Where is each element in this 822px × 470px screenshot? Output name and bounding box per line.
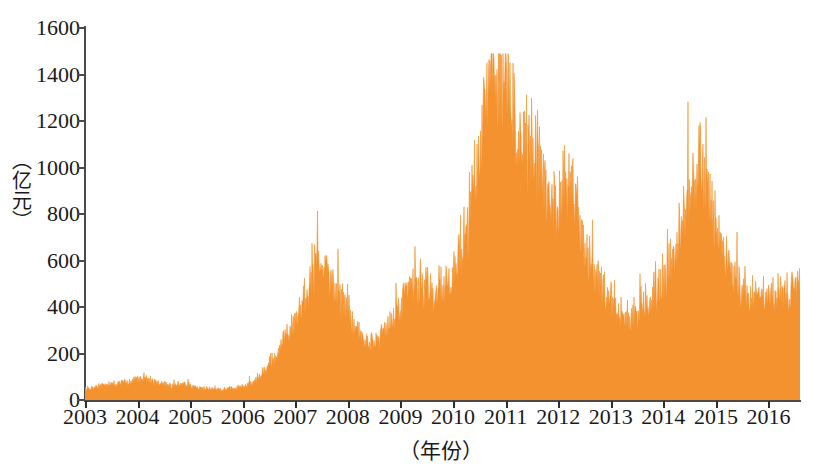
plot-area bbox=[85, 28, 800, 400]
y-tick-label: 1600 bbox=[18, 17, 80, 39]
y-tick-label: 1200 bbox=[18, 110, 80, 132]
y-tick-mark bbox=[78, 399, 85, 401]
y-tick-mark bbox=[78, 167, 85, 169]
y-tick-label: 600 bbox=[18, 250, 80, 272]
area-series-path bbox=[85, 54, 800, 400]
y-tick-label: 200 bbox=[18, 343, 80, 365]
chart-container: （亿元） 02004006008001000120014001600 20032… bbox=[0, 0, 822, 470]
x-tick-label: 2016 bbox=[728, 404, 808, 430]
y-tick-mark bbox=[78, 74, 85, 76]
y-tick-mark bbox=[78, 353, 85, 355]
y-tick-label: 1000 bbox=[18, 157, 80, 179]
y-tick-mark bbox=[78, 306, 85, 308]
x-axis-title: （年份） bbox=[0, 434, 822, 464]
y-tick-mark bbox=[78, 120, 85, 122]
area-series-svg bbox=[85, 28, 800, 400]
x-axis-title-text: （年份） bbox=[339, 434, 483, 464]
y-axis-tick-labels: 02004006008001000120014001600 bbox=[18, 0, 80, 470]
y-tick-mark bbox=[78, 27, 85, 29]
y-tick-label: 1400 bbox=[18, 64, 80, 86]
y-tick-mark bbox=[78, 213, 85, 215]
x-axis-tick-labels: 2003200420052006200720082009201020112012… bbox=[0, 404, 822, 434]
y-tick-label: 400 bbox=[18, 296, 80, 318]
y-tick-mark bbox=[78, 260, 85, 262]
y-tick-label: 800 bbox=[18, 203, 80, 225]
